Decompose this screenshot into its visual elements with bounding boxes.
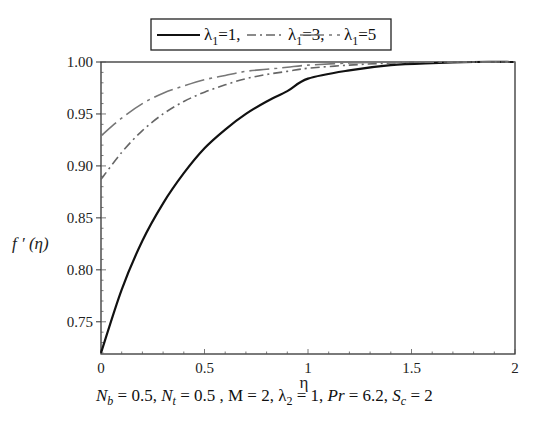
y-tick-label: 0.90 [67, 158, 93, 174]
parameter-annotation: Nb = 0.5, Nt = 0.5 , M = 2, λ2 = 1, Pr =… [96, 386, 433, 409]
y-tick-label: 0.85 [67, 210, 93, 226]
legend: λ1=1, λ1=3, λ1=5 [151, 19, 391, 50]
y-tick-label: 0.95 [67, 106, 93, 122]
plot-frame [101, 62, 515, 354]
y-tick-label: 0.75 [67, 314, 93, 330]
y-tick-label: 1.00 [67, 54, 93, 70]
curve-series-1 [101, 62, 515, 353]
x-tick-label: 0 [97, 360, 105, 376]
y-tick-label: 0.80 [67, 262, 93, 278]
y-axis-label: f ′ (η) [12, 234, 49, 253]
x-tick-label: 0.5 [195, 360, 214, 376]
x-tick-label: 2 [511, 360, 519, 376]
curves [101, 62, 515, 353]
chart: λ1=1, λ1=3, λ1=5 00.511.520.750.800.850.… [0, 0, 535, 436]
axis-tick-labels: 00.511.520.750.800.850.900.951.00 [67, 54, 519, 376]
axis-ticks [96, 62, 515, 354]
x-tick-label: 1.5 [402, 360, 421, 376]
curve-series-3 [101, 62, 515, 136]
